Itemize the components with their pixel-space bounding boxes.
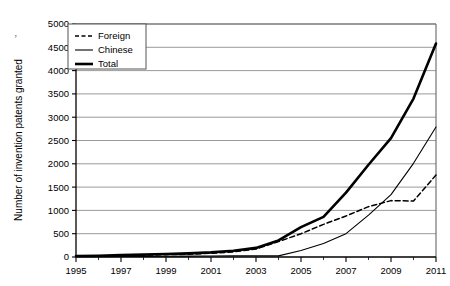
line-chart: 0500100015002000250030003500400045005000…	[0, 0, 450, 286]
y-axis-tick-label: 2000	[48, 158, 69, 169]
y-axis-tick-label: 4000	[48, 65, 69, 76]
y-axis-tick-label: 2500	[48, 135, 69, 146]
chart-container: 0500100015002000250030003500400045005000…	[0, 0, 450, 286]
y-axis-tick-label: 1000	[48, 205, 69, 216]
series-line-chinese	[76, 127, 436, 257]
x-axis-tick-label: 1999	[155, 265, 176, 276]
x-axis-tick-label: 2005	[290, 265, 311, 276]
x-axis-tick-label: 1995	[65, 265, 86, 276]
series-line-total	[76, 44, 436, 257]
y-axis-tick-label: 5000	[48, 18, 69, 29]
y-axis-tick-label: 4500	[48, 42, 69, 53]
y-axis-tick-label: 500	[53, 228, 69, 239]
x-axis-tick-label: 1997	[110, 265, 131, 276]
legend-label-chinese: Chinese	[98, 44, 133, 55]
legend-label-total: Total	[98, 58, 118, 69]
legend-label-foreign: Foreign	[98, 30, 130, 41]
x-axis-tick-label: 2003	[245, 265, 266, 276]
y-axis-tick-label: 3500	[48, 88, 69, 99]
x-axis-tick-label: 2009	[380, 265, 401, 276]
y-axis-tick-label: 0	[64, 251, 69, 262]
y-axis-tick-label: 3000	[48, 112, 69, 123]
stray-mark-artifact: ’	[14, 33, 17, 44]
x-axis-tick-label: 2001	[200, 265, 221, 276]
y-axis-tick-label: 1500	[48, 182, 69, 193]
x-axis-tick-label: 2011	[426, 265, 446, 276]
y-axis-title: Number of invention patents granted	[13, 59, 24, 221]
x-axis-tick-label: 2007	[335, 265, 356, 276]
